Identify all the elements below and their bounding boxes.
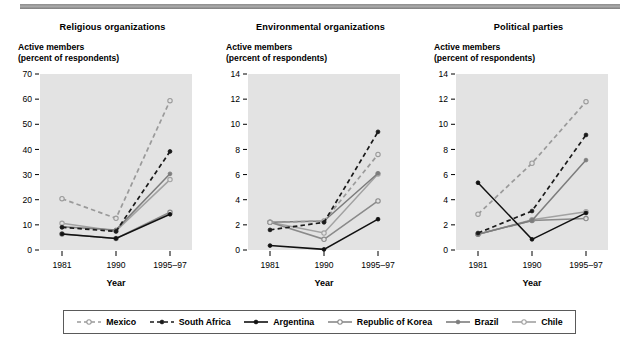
y-tick-label: 50: [22, 119, 32, 129]
y-axis-caption-line1: Active members: [226, 42, 327, 53]
legend-label: South Africa: [179, 317, 231, 327]
y-tick-label: 14: [438, 69, 448, 79]
y-axis-caption-line2: (percent of respondents): [226, 53, 327, 64]
data-point-south-africa: [584, 133, 588, 137]
chart-panel-group: Religious organizationsActive members(pe…: [0, 14, 639, 299]
data-point-argentina: [60, 232, 64, 236]
plot-area-wrapper: 010203040506070198119901995–97Year: [6, 68, 219, 300]
chart-title: Environmental organizations: [214, 22, 427, 32]
data-point-argentina: [476, 181, 480, 185]
y-tick-label: 60: [22, 94, 32, 104]
data-point-mexico: [476, 212, 480, 216]
y-tick-label: 4: [235, 195, 240, 205]
data-point-argentina: [376, 217, 380, 221]
y-axis-caption-line1: Active members: [434, 42, 535, 53]
chart-title: Religious organizations: [6, 22, 219, 32]
data-point-south-africa: [60, 225, 64, 229]
legend-label: Brazil: [475, 317, 499, 327]
data-point-south-africa: [268, 228, 272, 232]
data-point-mexico: [584, 99, 588, 103]
data-point-republic-of-korea: [584, 216, 588, 220]
data-point-mexico: [376, 152, 380, 156]
data-point-south-africa: [376, 130, 380, 134]
data-point-south-africa: [530, 209, 534, 213]
chart-panel-3: Political partiesActive members(percent …: [422, 14, 635, 299]
legend-label: Chile: [541, 317, 563, 327]
plot-svg: 010203040506070198119901995–97Year: [6, 68, 219, 300]
data-point-brazil: [530, 219, 534, 223]
y-tick-label: 10: [230, 119, 240, 129]
data-point-south-africa: [114, 229, 118, 233]
data-point-argentina: [114, 237, 118, 241]
y-tick-label: 0: [27, 245, 32, 255]
legend-item-chile[interactable]: Chile: [511, 317, 563, 327]
y-tick-label: 2: [235, 220, 240, 230]
y-axis-caption-line1: Active members: [18, 42, 119, 53]
data-point-brazil: [584, 158, 588, 162]
chart-legend: MexicoSouth AfricaArgentinaRepublic of K…: [63, 310, 576, 334]
x-tick-label: 1990: [106, 260, 125, 270]
y-axis-caption: Active members(percent of respondents): [434, 42, 535, 64]
y-tick-label: 30: [22, 170, 32, 180]
x-tick-label: 1990: [522, 260, 541, 270]
plot-area-wrapper: 02468101214198119901995–97Year: [214, 68, 427, 300]
x-tick-label: 1995–97: [361, 260, 395, 270]
data-point-mexico: [114, 216, 118, 220]
y-tick-label: 0: [235, 245, 240, 255]
data-point-argentina: [322, 247, 326, 251]
y-axis-caption-line2: (percent of respondents): [434, 53, 535, 64]
plot-svg: 02468101214198119901995–97Year: [214, 68, 427, 300]
x-axis-title: Year: [314, 278, 334, 288]
legend-swatch-south-africa-icon: [149, 317, 175, 327]
data-point-republic-of-korea: [322, 237, 326, 241]
x-tick-label: 1981: [52, 260, 71, 270]
data-point-south-africa: [322, 220, 326, 224]
legend-label: Argentina: [273, 317, 314, 327]
legend-label: Mexico: [106, 317, 136, 327]
data-point-south-africa: [168, 150, 172, 154]
y-axis-caption: Active members(percent of respondents): [18, 42, 119, 64]
legend-swatch-chile-icon: [511, 317, 537, 327]
legend-item-argentina[interactable]: Argentina: [243, 317, 314, 327]
data-point-mexico: [530, 161, 534, 165]
legend-item-south-africa[interactable]: South Africa: [149, 317, 231, 327]
y-tick-label: 14: [230, 69, 240, 79]
data-point-republic-of-korea: [376, 199, 380, 203]
y-tick-label: 40: [22, 145, 32, 155]
data-point-brazil: [168, 172, 172, 176]
x-axis-title: Year: [106, 278, 126, 288]
chart-panel-1: Religious organizationsActive members(pe…: [6, 14, 219, 299]
x-tick-label: 1995–97: [153, 260, 187, 270]
y-tick-label: 20: [22, 195, 32, 205]
y-tick-label: 12: [230, 94, 240, 104]
x-tick-label: 1981: [260, 260, 279, 270]
y-tick-label: 10: [22, 220, 32, 230]
y-tick-label: 6: [443, 170, 448, 180]
legend-item-republic-of-korea[interactable]: Republic of Korea: [327, 317, 432, 327]
data-point-brazil: [376, 171, 380, 175]
legend-label: Republic of Korea: [357, 317, 432, 327]
x-axis-title: Year: [522, 278, 542, 288]
legend-item-mexico[interactable]: Mexico: [76, 317, 136, 327]
x-tick-label: 1990: [314, 260, 333, 270]
data-point-chile: [168, 177, 172, 181]
legend-item-brazil[interactable]: Brazil: [445, 317, 499, 327]
data-point-mexico: [60, 197, 64, 201]
plot-area-wrapper: 02468101214198119901995–97Year: [422, 68, 635, 300]
data-point-argentina: [530, 237, 534, 241]
legend-swatch-mexico-icon: [76, 317, 102, 327]
y-tick-label: 2: [443, 220, 448, 230]
y-tick-label: 8: [235, 145, 240, 155]
chart-title: Political parties: [422, 22, 635, 32]
legend-swatch-republic-of-korea-icon: [327, 317, 353, 327]
y-tick-label: 12: [438, 94, 448, 104]
y-tick-label: 70: [22, 69, 32, 79]
y-tick-label: 0: [443, 245, 448, 255]
chart-panel-2: Environmental organizationsActive member…: [214, 14, 427, 299]
legend-swatch-argentina-icon: [243, 317, 269, 327]
y-tick-label: 6: [235, 170, 240, 180]
x-tick-label: 1981: [468, 260, 487, 270]
data-point-mexico: [268, 220, 272, 224]
y-tick-label: 10: [438, 119, 448, 129]
y-axis-caption: Active members(percent of respondents): [226, 42, 327, 64]
